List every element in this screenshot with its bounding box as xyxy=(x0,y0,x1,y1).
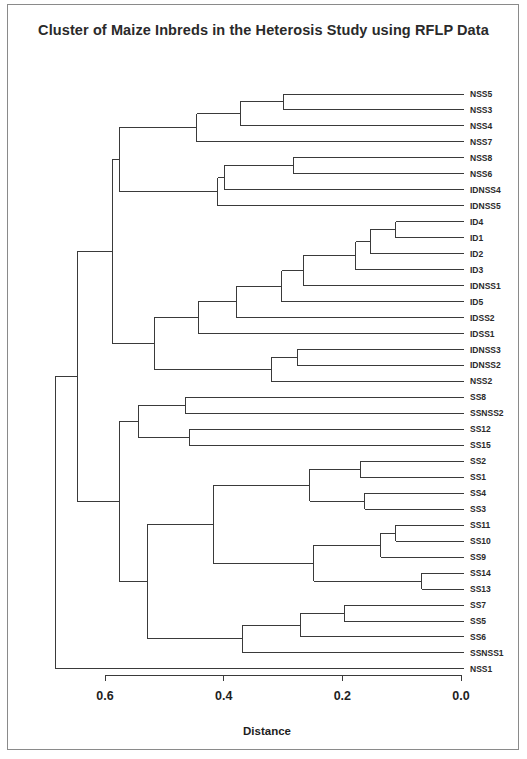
leaf-label: SS10 xyxy=(470,536,491,546)
x-tick-label: 0.6 xyxy=(96,689,113,703)
leaf-label: IDNSS2 xyxy=(470,360,501,370)
leaf-label: IDSS2 xyxy=(470,313,495,323)
leaf-label: IDNSS5 xyxy=(470,201,501,211)
leaf-label: IDNSS1 xyxy=(470,281,501,291)
leaf-label: SS15 xyxy=(470,440,491,450)
x-axis: 0.60.40.20.0 xyxy=(96,675,469,703)
leaf-label: IDSS1 xyxy=(470,329,495,339)
leaf-label: ID4 xyxy=(470,217,484,227)
leaf-label: SS7 xyxy=(470,600,486,610)
leaf-label: NSS6 xyxy=(470,169,492,179)
leaf-label: NSS1 xyxy=(470,664,492,674)
leaf-label: ID5 xyxy=(470,297,484,307)
leaf-label: SS9 xyxy=(470,552,486,562)
leaf-label: NSS3 xyxy=(470,105,492,115)
x-tick-label: 0.0 xyxy=(452,689,469,703)
x-axis-title: Distance xyxy=(243,725,291,737)
leaf-label: NSS5 xyxy=(470,89,492,99)
leaf-label: SS13 xyxy=(470,584,491,594)
leaf-label: NSS2 xyxy=(470,376,492,386)
leaf-label: NSS8 xyxy=(470,153,492,163)
leaf-label: IDNSS3 xyxy=(470,345,501,355)
leaf-label: NSS4 xyxy=(470,121,492,131)
leaf-label: SSNSS1 xyxy=(470,648,504,658)
leaf-label: SS6 xyxy=(470,632,486,642)
leaf-label: SS11 xyxy=(470,520,491,530)
leaf-label: IDNSS4 xyxy=(470,185,501,195)
leaf-label: SS3 xyxy=(470,504,486,514)
leaf-label: SS14 xyxy=(470,568,491,578)
leaf-label: SS5 xyxy=(470,616,486,626)
leaf-label: SS4 xyxy=(470,488,486,498)
x-tick-label: 0.4 xyxy=(215,689,232,703)
leaf-label: SS12 xyxy=(470,424,491,434)
leaf-label: NSS7 xyxy=(470,137,492,147)
leaf-label: SS8 xyxy=(470,392,486,402)
leaf-label: SS2 xyxy=(470,456,486,466)
x-tick-label: 0.2 xyxy=(334,689,351,703)
leaf-labels: NSS5NSS3NSS4NSS7NSS8NSS6IDNSS4IDNSS5ID4I… xyxy=(470,89,504,674)
leaf-label: ID2 xyxy=(470,249,484,259)
leaf-label: ID3 xyxy=(470,265,484,275)
dendrogram-branches xyxy=(55,94,464,669)
leaf-label: ID1 xyxy=(470,233,484,243)
leaf-label: SSNSS2 xyxy=(470,408,504,418)
leaf-label: SS1 xyxy=(470,472,486,482)
dendrogram-plot: NSS5NSS3NSS4NSS7NSS8NSS6IDNSS4IDNSS5ID4I… xyxy=(0,0,527,759)
